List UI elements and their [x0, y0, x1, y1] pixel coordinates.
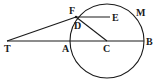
label-E: E	[112, 12, 119, 23]
label-D: D	[74, 20, 81, 31]
point-F	[75, 16, 77, 18]
line-TF	[7, 17, 76, 41]
label-M: M	[136, 7, 146, 18]
label-F: F	[69, 5, 75, 16]
label-B: B	[146, 36, 153, 47]
label-A: A	[62, 43, 70, 54]
label-T: T	[4, 43, 11, 54]
geometry-diagram: F E M D T A C B	[0, 0, 158, 82]
label-C: C	[103, 43, 110, 54]
